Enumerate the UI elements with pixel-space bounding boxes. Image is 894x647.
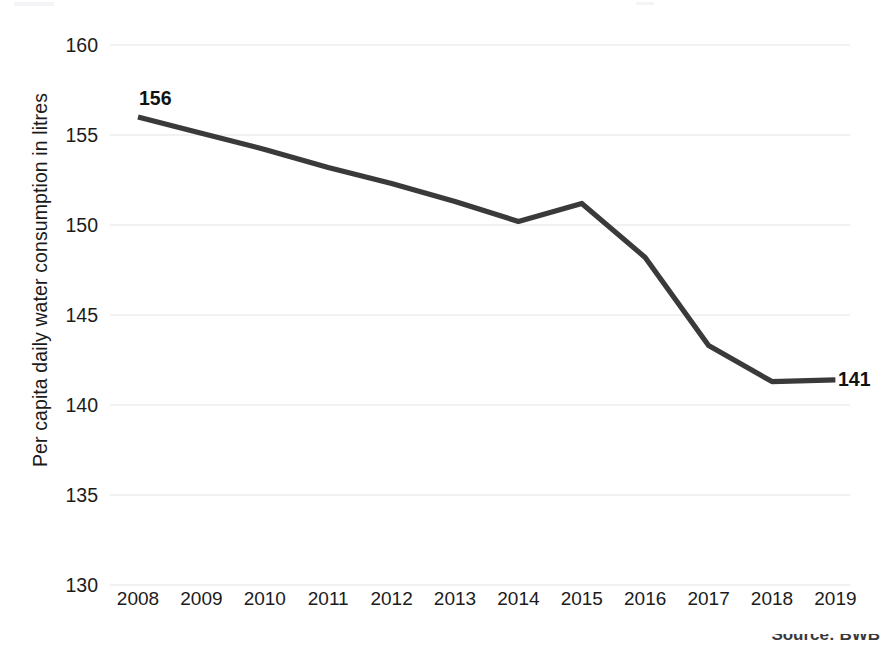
- scan-artifact-top-right: [636, 2, 654, 5]
- x-axis-tick-2008: 2008: [108, 588, 168, 610]
- cropped-source-note: Source: BWB: [600, 634, 880, 647]
- y-axis-tick-160: 160: [44, 34, 98, 57]
- x-axis-tick-2013: 2013: [425, 588, 485, 610]
- x-axis-tick-2015: 2015: [552, 588, 612, 610]
- x-axis-tick-2019: 2019: [805, 588, 865, 610]
- y-axis-tick-155: 155: [44, 124, 98, 147]
- x-axis-tick-2009: 2009: [171, 588, 231, 610]
- gridlines: [110, 45, 850, 585]
- cropped-source-note-text: Source: BWB: [600, 634, 880, 645]
- plot-area: [110, 45, 850, 585]
- y-axis-tick-150: 150: [44, 214, 98, 237]
- x-axis-tick-2016: 2016: [615, 588, 675, 610]
- x-axis-tick-2010: 2010: [235, 588, 295, 610]
- x-axis-tick-labels: 2008200920102011201220132014201520162017…: [110, 588, 850, 614]
- chart-canvas: [110, 45, 850, 585]
- y-axis-tick-135: 135: [44, 484, 98, 507]
- x-axis-tick-2011: 2011: [298, 588, 358, 610]
- series-line-water-consumption: [138, 117, 835, 382]
- x-axis-tick-2014: 2014: [488, 588, 548, 610]
- y-axis-tick-130: 130: [44, 574, 98, 597]
- x-axis-tick-2012: 2012: [362, 588, 422, 610]
- y-axis-tick-140: 140: [44, 394, 98, 417]
- data-label-last-point: 141: [838, 368, 871, 391]
- x-axis-tick-2017: 2017: [679, 588, 739, 610]
- x-axis-tick-2018: 2018: [742, 588, 802, 610]
- y-axis-tick-145: 145: [44, 304, 98, 327]
- chart-screenshot: Per capita daily water consumption in li…: [0, 0, 894, 647]
- y-axis-tick-labels: 130135140145150155160: [44, 0, 98, 647]
- data-line: [138, 117, 835, 382]
- data-label-first-point: 156: [139, 87, 172, 110]
